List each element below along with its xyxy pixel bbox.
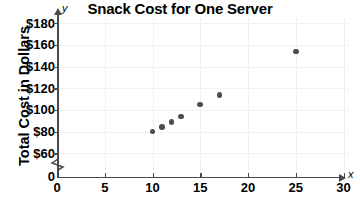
gridline-horizontal [57, 23, 349, 24]
x-tick-mark [57, 173, 58, 178]
x-axis-line [57, 177, 340, 179]
x-tick-mark [200, 173, 201, 178]
gridline-vertical [344, 18, 345, 171]
gridline-vertical [248, 18, 249, 171]
x-tick-mark [105, 173, 106, 178]
y-tick-mark [53, 45, 58, 46]
y-tick-label: $80 [5, 125, 55, 138]
y-tick-label: $140 [5, 60, 55, 73]
y-tick-mark [53, 88, 58, 89]
x-tick-label: 15 [183, 181, 217, 195]
y-tick-label: $60 [5, 147, 55, 160]
data-point [169, 119, 175, 125]
y-tick-mark [53, 67, 58, 68]
gridline-horizontal [57, 88, 349, 89]
x-tick-mark [296, 173, 297, 178]
y-tick-label: $120 [5, 82, 55, 95]
gridline-horizontal [57, 132, 349, 133]
gridline-vertical [153, 18, 154, 171]
gridline-horizontal [57, 110, 349, 111]
x-tick-label: 0 [40, 181, 74, 195]
data-point [159, 124, 165, 130]
data-point [217, 92, 223, 98]
x-tick-label: 10 [136, 181, 170, 195]
y-axis-letter: y [62, 2, 68, 14]
y-tick-label: $160 [5, 38, 55, 51]
x-tick-mark [248, 173, 249, 178]
gridline-vertical [105, 18, 106, 171]
y-tick-label: $100 [5, 103, 55, 116]
gridline-horizontal [57, 153, 349, 154]
y-tick-mark [53, 23, 58, 24]
y-tick-mark [53, 132, 58, 133]
x-tick-mark [344, 173, 345, 178]
scatter-chart: Snack Cost for One Server Total Cost in … [0, 0, 360, 207]
y-tick-label: $180 [5, 17, 55, 30]
y-tick-mark [53, 110, 58, 111]
data-point [178, 114, 184, 120]
gridline-vertical [296, 18, 297, 171]
gridline-horizontal [57, 67, 349, 68]
x-tick-label: 5 [88, 181, 122, 195]
x-tick-label: 25 [279, 181, 313, 195]
y-tick-labels: 0$60$80$100$120$140$160$180 [0, 0, 55, 207]
x-tick-label: 30 [327, 181, 360, 195]
axis-break-icon [50, 155, 66, 173]
gridline-vertical [200, 18, 201, 171]
plot-area [57, 18, 351, 177]
x-tick-mark [153, 173, 154, 178]
data-point [293, 49, 299, 55]
gridline-horizontal [57, 45, 349, 46]
x-tick-label: 20 [231, 181, 265, 195]
x-axis-letter: x [348, 168, 354, 180]
